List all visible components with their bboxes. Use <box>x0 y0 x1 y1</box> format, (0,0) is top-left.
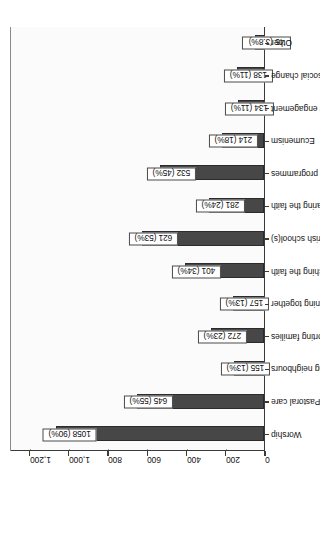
category-tick-mark <box>265 108 269 109</box>
bar-value-label: 214 (18%) <box>209 135 258 148</box>
gridline <box>69 449 70 450</box>
category-label: Parish school(s) <box>271 234 308 244</box>
value-tick-label: 400 <box>187 455 201 465</box>
category-tick-mark <box>265 402 269 403</box>
bar-value-label: 157 (13%) <box>220 298 269 311</box>
category-label: Supporting families <box>271 332 308 342</box>
gridline <box>187 449 188 450</box>
bar-value-label: 645 (55%) <box>124 396 173 409</box>
category-label: Worship <box>271 430 302 440</box>
value-tick-label: 200 <box>226 455 240 465</box>
bar-value-label: 401 (34%) <box>172 265 221 278</box>
category-label: Community engagement <box>271 104 308 114</box>
gridline <box>147 449 148 450</box>
bar-chart-figure: 1058 (90%)645 (55%)155 (13%)272 (23%)157… <box>0 0 308 559</box>
category-tick-mark <box>265 173 269 174</box>
value-tick-label: 1,000 <box>69 455 90 465</box>
value-tick-label: 600 <box>147 455 161 465</box>
value-tick-label: 800 <box>108 455 122 465</box>
gridline <box>108 449 109 450</box>
category-label: Pastoral care <box>271 397 308 407</box>
category-tick-mark <box>265 369 269 370</box>
category-label: Confronting injustice/ working for socia… <box>271 71 308 81</box>
value-tick-label: 0 <box>265 455 270 465</box>
category-label: Sharing the faith <box>271 201 308 211</box>
category-label: Serving neighbours <box>271 364 308 374</box>
bar-value-label: 272 (23%) <box>198 330 247 343</box>
category-tick-mark <box>265 206 269 207</box>
category-tick-mark <box>265 271 269 272</box>
value-tick-label: 1,200 <box>30 455 51 465</box>
category-label: Teaching the faith <box>271 267 308 277</box>
category-tick-mark <box>265 304 269 305</box>
chart-screenshot: 1058 (90%)645 (55%)155 (13%)272 (23%)157… <box>0 0 308 559</box>
category-tick-mark <box>265 336 269 337</box>
category-tick-mark <box>265 434 269 435</box>
category-tick-mark <box>265 141 269 142</box>
bar-value-label: 155 (13%) <box>221 363 270 376</box>
bar-value-label: 281 (24%) <box>196 200 245 213</box>
category-tick-mark <box>265 238 269 239</box>
bar-value-label: 621 (53%) <box>129 233 178 246</box>
gridline <box>30 449 31 450</box>
category-tick-mark <box>265 43 269 44</box>
gridline <box>226 449 227 450</box>
bar-value-label: 532 (45%) <box>147 167 196 180</box>
bar-value-label: 1058 (90%) <box>43 428 97 441</box>
category-label: Other <box>271 38 292 48</box>
category-label: Ecumenism <box>271 136 308 146</box>
category-tick-mark <box>265 75 269 76</box>
category-label: Learning together <box>271 299 308 309</box>
category-label: Sacramental programmes <box>271 169 308 179</box>
plot-top-border <box>10 27 11 451</box>
